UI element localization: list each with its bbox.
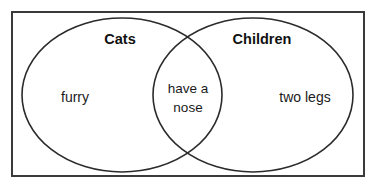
intersection-item-line-2: nose <box>173 100 202 115</box>
set-label-cats: Cats <box>104 31 135 47</box>
venn-diagram-canvas: Cats Children furry two legs have a nose <box>0 0 376 188</box>
intersection-item-line-1: have a <box>168 81 209 96</box>
set-item-cats-furry: furry <box>61 89 89 105</box>
venn-diagram-svg: Cats Children furry two legs have a nose <box>0 0 376 188</box>
set-item-children-two-legs: two legs <box>279 89 330 105</box>
set-label-children: Children <box>233 31 292 47</box>
